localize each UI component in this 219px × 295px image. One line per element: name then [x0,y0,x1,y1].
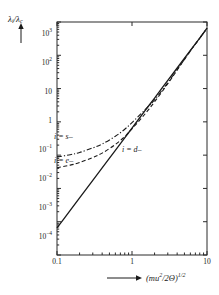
figure-container: λi/λc (mu2/2Θ)1/2 103 102 10 1 10−1 10−2… [0,0,219,295]
curve-is [57,28,207,157]
axis-ticks [57,22,207,255]
x-axis-arrow-icon [107,275,142,280]
curve-ie [57,28,207,167]
plot-frame [57,22,207,255]
plot-svg [0,0,219,295]
data-curves [57,28,207,228]
y-axis-arrow-icon [18,23,23,43]
